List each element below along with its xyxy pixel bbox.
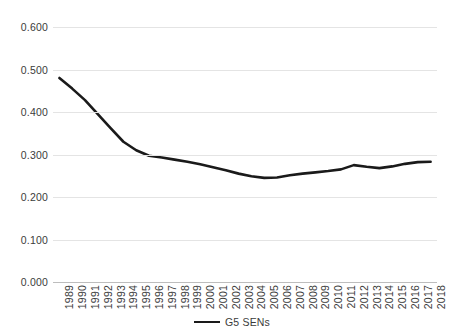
y-axis-tick-label: 0.100 (21, 234, 48, 246)
gridline (53, 240, 437, 241)
y-axis-tick-label: 0.600 (21, 21, 48, 33)
line-chart: 0.6000.5000.4000.3000.2000.1000.000 1989… (0, 0, 464, 333)
x-axis-tick-label: 2004 (255, 285, 267, 309)
gridline (53, 112, 437, 113)
x-axis-tick-label: 2007 (294, 285, 306, 309)
chart-legend: G5 SENs (0, 316, 464, 328)
y-axis-tick-label: 0.300 (21, 149, 48, 161)
y-axis-tick-label: 0.200 (21, 191, 48, 203)
x-axis-tick-label: 2009 (319, 285, 331, 309)
x-axis-tick-label: 1994 (127, 285, 139, 309)
y-axis: 0.6000.5000.4000.3000.2000.1000.000 (0, 0, 48, 333)
legend-label: G5 SENs (225, 316, 270, 328)
gridline (53, 155, 437, 156)
x-axis-tick-label: 2013 (371, 285, 383, 309)
x-axis-tick-label: 2014 (383, 285, 395, 309)
gridline (53, 27, 437, 28)
x-axis-tick-label: 2016 (409, 285, 421, 309)
y-axis-tick-label: 0.000 (21, 276, 48, 288)
x-axis-tick-label: 1998 (179, 285, 191, 309)
x-axis-tick-label: 1997 (166, 285, 178, 309)
series-line (59, 78, 430, 178)
x-axis-tick-label: 2006 (281, 285, 293, 309)
x-axis-tick-label: 2017 (422, 285, 434, 309)
gridline (53, 70, 437, 71)
x-axis-tick-label: 2008 (307, 285, 319, 309)
x-axis-tick-label: 1992 (102, 285, 114, 309)
x-axis-tick-label: 2002 (230, 285, 242, 309)
gridline (53, 282, 437, 283)
y-axis-tick-label: 0.500 (21, 64, 48, 76)
x-axis-tick-label: 2011 (345, 285, 357, 308)
y-axis-tick-label: 0.400 (21, 106, 48, 118)
x-axis-tick-label: 1989 (63, 285, 75, 309)
x-axis-tick-label: 2012 (358, 285, 370, 309)
x-axis-tick-label: 1999 (191, 285, 203, 309)
x-axis-tick-label: 1996 (153, 285, 165, 309)
x-axis-tick-label: 2003 (243, 285, 255, 309)
x-axis-tick-label: 2000 (204, 285, 216, 309)
x-axis-tick-label: 1995 (140, 285, 152, 309)
x-axis-tick-label: 2001 (217, 285, 229, 309)
x-axis-tick-label: 1993 (115, 285, 127, 309)
x-axis-tick-label: 2005 (268, 285, 280, 309)
legend-line-marker (194, 321, 220, 323)
x-axis-tick-label: 2010 (332, 285, 344, 309)
gridline (53, 197, 437, 198)
x-axis-tick-label: 1991 (89, 285, 101, 309)
x-axis-tick-label: 1990 (76, 285, 88, 309)
x-axis-tick-label: 2015 (396, 285, 408, 309)
plot-area (53, 27, 437, 282)
x-axis-tick-label: 2018 (435, 285, 447, 309)
